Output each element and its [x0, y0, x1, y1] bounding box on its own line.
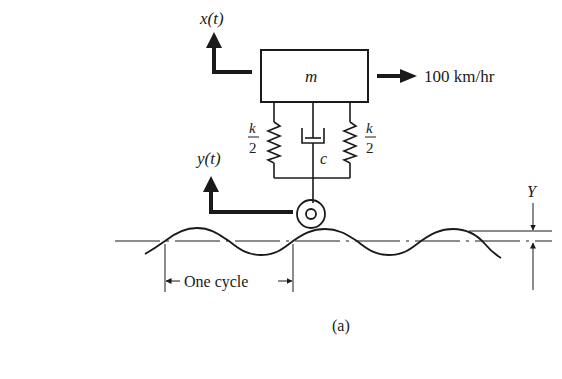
- wheel: [297, 200, 325, 228]
- diagram-canvas: x(t) m 100 km/hr k 2 c k 2: [0, 0, 562, 379]
- x-t-label: x(t): [199, 9, 224, 28]
- wavelength-label: One cycle: [184, 273, 248, 291]
- y-t-arrow-icon: [203, 176, 293, 212]
- right-spring: [344, 102, 356, 178]
- left-spring: [268, 102, 280, 178]
- velocity-arrow-icon: [377, 69, 417, 83]
- quarter-car-diagram: x(t) m 100 km/hr k 2 c k 2: [0, 0, 562, 379]
- road-profile: [145, 228, 501, 258]
- y-t-label: y(t): [195, 149, 221, 168]
- damper-label: c: [320, 150, 327, 167]
- left-spring-2: 2: [249, 140, 257, 156]
- mass-label: m: [305, 67, 317, 86]
- left-spring-k: k: [249, 120, 256, 136]
- x-t-arrow-icon: [206, 32, 252, 72]
- figure-caption: (a): [332, 317, 350, 335]
- right-spring-2: 2: [366, 140, 374, 156]
- amplitude-label: Y: [527, 183, 538, 200]
- velocity-label: 100 km/hr: [424, 67, 495, 86]
- right-spring-k: k: [366, 120, 373, 136]
- amplitude-indicator: [469, 203, 552, 290]
